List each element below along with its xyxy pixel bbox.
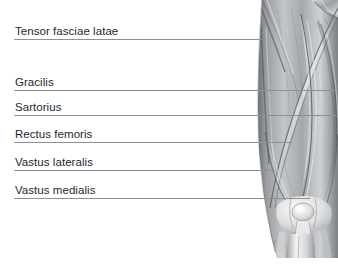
leader-line-sartorius [14, 115, 338, 116]
label-tensor-fasciae-latae: Tensor fasciae latae [15, 25, 118, 38]
anterior-thigh-muscle-anatomy-image [255, 0, 338, 258]
leader-line-rectus-femoris [14, 142, 292, 143]
leader-line-vastus-lateralis [14, 170, 275, 171]
leader-line-gracilis [14, 90, 338, 91]
label-sartorius: Sartorius [15, 101, 61, 114]
label-rectus-femoris: Rectus femoris [15, 128, 92, 141]
leader-line-tensor-fasciae-latae [14, 39, 262, 40]
label-vastus-lateralis: Vastus lateralis [15, 156, 93, 169]
label-vastus-medialis: Vastus medialis [15, 184, 95, 197]
label-gracilis: Gracilis [15, 76, 54, 89]
anatomy-figure: Tensor fasciae lataeGracilisSartoriusRec… [0, 0, 338, 271]
leader-line-vastus-medialis [14, 198, 310, 199]
